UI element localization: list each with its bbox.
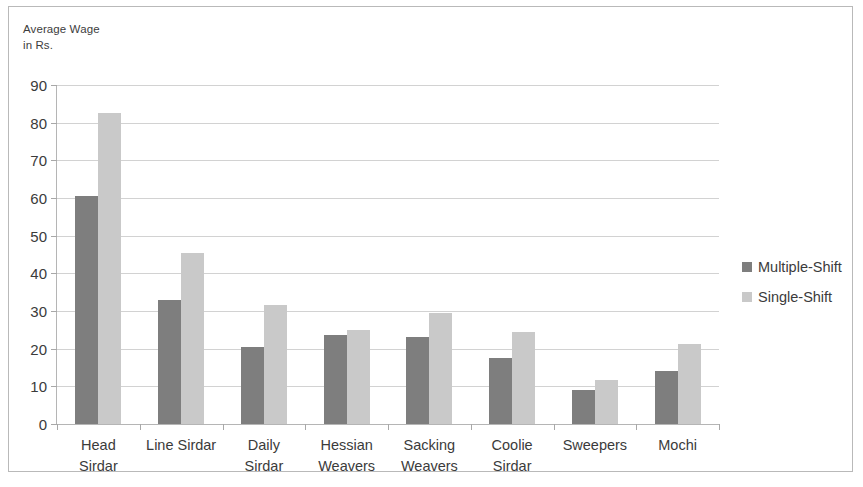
bar bbox=[264, 305, 287, 424]
bar bbox=[572, 390, 595, 424]
x-axis-category-label: Hessian Weavers bbox=[305, 435, 388, 477]
x-axis-category-label: Coolie Sirdar bbox=[471, 435, 554, 477]
y-axis-tick-label: 0 bbox=[13, 416, 47, 433]
x-axis-category-label: Daily Sirdar bbox=[223, 435, 306, 477]
y-axis-tick-label: 20 bbox=[13, 340, 47, 357]
legend-item[interactable]: Multiple-Shift bbox=[742, 259, 842, 275]
x-axis-tick-mark bbox=[57, 424, 58, 430]
legend-swatch-icon bbox=[742, 262, 752, 272]
x-axis-tick-mark bbox=[305, 424, 306, 430]
chart-frame: Average Wage in Rs. 9080706050403020100 … bbox=[8, 6, 853, 472]
bar bbox=[429, 313, 452, 424]
x-axis-tick-mark bbox=[719, 424, 720, 430]
x-axis-tick-mark bbox=[388, 424, 389, 430]
bar bbox=[324, 335, 347, 424]
y-axis-tick-label: 50 bbox=[13, 227, 47, 244]
bar bbox=[595, 380, 618, 424]
bar bbox=[678, 344, 701, 424]
y-axis-tick-label: 30 bbox=[13, 303, 47, 320]
y-axis-tick-label: 60 bbox=[13, 190, 47, 207]
legend-item[interactable]: Single-Shift bbox=[742, 289, 842, 305]
bar bbox=[406, 337, 429, 424]
x-axis-category-label: Mochi bbox=[636, 435, 719, 456]
bar bbox=[512, 332, 535, 424]
legend-swatch-icon bbox=[742, 292, 752, 302]
x-axis-category-label: Line Sirdar bbox=[140, 435, 223, 456]
x-axis-tick-mark bbox=[471, 424, 472, 430]
y-axis-tick-label: 70 bbox=[13, 152, 47, 169]
x-axis-tick-mark bbox=[636, 424, 637, 430]
y-axis-title: Average Wage in Rs. bbox=[23, 21, 100, 53]
bar bbox=[489, 358, 512, 424]
x-axis-category-label: Head Sirdar bbox=[57, 435, 140, 477]
bar bbox=[158, 300, 181, 424]
x-axis-tick-mark bbox=[140, 424, 141, 430]
bar bbox=[98, 113, 121, 424]
x-axis-category-label: Sacking Weavers bbox=[388, 435, 471, 477]
bar bbox=[655, 371, 678, 424]
bar bbox=[181, 253, 204, 424]
bar bbox=[347, 330, 370, 424]
x-axis-tick-mark bbox=[223, 424, 224, 430]
x-axis-category-label: Sweepers bbox=[554, 435, 637, 456]
legend-label: Multiple-Shift bbox=[758, 259, 842, 275]
y-axis-tick-label: 10 bbox=[13, 378, 47, 395]
bar bbox=[75, 196, 98, 424]
plot-area bbox=[57, 85, 719, 424]
y-axis-tick-label: 90 bbox=[13, 77, 47, 94]
y-axis-tick-label: 40 bbox=[13, 265, 47, 282]
chart-legend: Multiple-ShiftSingle-Shift bbox=[742, 259, 842, 319]
bar bbox=[241, 347, 264, 424]
x-axis-tick-mark bbox=[554, 424, 555, 430]
legend-label: Single-Shift bbox=[758, 289, 832, 305]
y-axis-tick-label: 80 bbox=[13, 114, 47, 131]
